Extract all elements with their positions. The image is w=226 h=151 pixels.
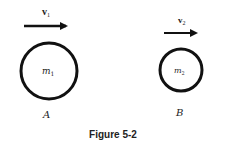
velocity-label-a: v1 (42, 6, 50, 18)
figure-caption: Figure 5-2 (89, 129, 137, 140)
object-label-a: A (42, 109, 50, 120)
object-a: v1 m1 A (21, 6, 77, 120)
mass-label-a: m1 (42, 66, 54, 77)
object-b: v2 m2 B (160, 15, 202, 118)
mass-label-b: m2 (174, 66, 185, 76)
figure-canvas: v1 m1 A v2 m2 B Figure 5-2 (0, 0, 226, 151)
object-label-b: B (175, 107, 183, 118)
velocity-label-b: v2 (178, 15, 186, 26)
